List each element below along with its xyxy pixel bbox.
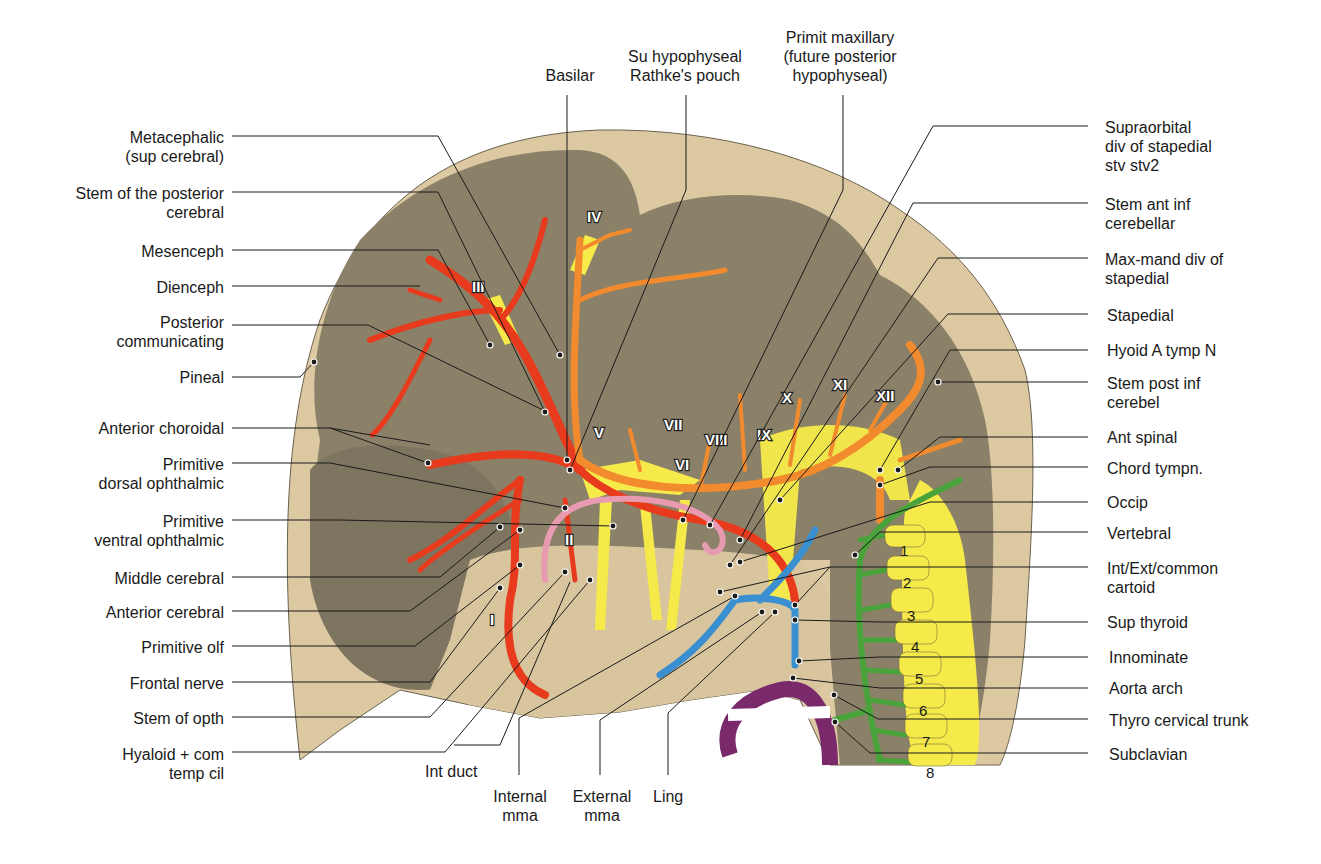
label-stem-of-opth: Stem of opth — [0, 709, 224, 728]
label-chord-tympn: Chord tympn. — [1107, 459, 1203, 478]
label-int-duct: Int duct — [425, 762, 477, 781]
label-stapedial: Stapedial — [1107, 306, 1174, 325]
svg-text:5: 5 — [915, 670, 923, 687]
label-frontal-nerve: Frontal nerve — [0, 674, 224, 693]
label-hyaloid: Hyaloid + com temp cil — [0, 745, 224, 783]
svg-text:7: 7 — [922, 733, 930, 750]
svg-text:XII: XII — [876, 387, 894, 404]
svg-text:II: II — [565, 531, 573, 548]
svg-text:VI: VI — [675, 456, 689, 473]
label-middle-cerebral: Middle cerebral — [0, 569, 224, 588]
label-primit-maxillary: Primit maxillary (future posterior hypop… — [765, 28, 915, 85]
label-anterior-cerebral: Anterior cerebral — [0, 603, 224, 622]
label-stem-posterior-cerebral: Stem of the posterior cerebral — [0, 184, 224, 222]
label-aorta-arch: Aorta arch — [1109, 679, 1183, 698]
svg-text:VII: VII — [664, 416, 682, 433]
label-mesenceph: Mesenceph — [0, 242, 224, 261]
label-su-hypophyseal: Su hypophyseal Rathke's pouch — [610, 47, 760, 85]
label-ling: Ling — [653, 787, 683, 806]
label-anterior-choroidal: Anterior choroidal — [0, 419, 224, 438]
label-occip: Occip — [1107, 493, 1148, 512]
svg-text:2: 2 — [903, 574, 911, 591]
label-metacephalic: Metacephalic (sup cerebral) — [0, 128, 224, 166]
label-max-mand-div: Max-mand div of stapedial — [1105, 250, 1223, 288]
svg-text:VIII: VIII — [705, 431, 728, 448]
label-internal-mma: Internal mma — [480, 787, 560, 825]
label-innominate: Innominate — [1109, 648, 1188, 667]
label-supraorbital: Supraorbital div of stapedial stv stv2 — [1105, 118, 1212, 175]
svg-text:X: X — [782, 389, 792, 406]
label-primitive-ventral-ophthalmic: Primitive ventral ophthalmic — [0, 512, 224, 550]
label-stem-ant-inf-cerebellar: Stem ant inf cerebellar — [1105, 195, 1190, 233]
label-pineal: Pineal — [0, 368, 224, 387]
svg-text:4: 4 — [911, 638, 919, 655]
svg-text:8: 8 — [926, 764, 934, 781]
svg-text:IV: IV — [587, 208, 601, 225]
label-sup-thyroid: Sup thyroid — [1107, 613, 1188, 632]
label-subclavian: Subclavian — [1109, 745, 1187, 764]
svg-text:XI: XI — [833, 376, 847, 393]
svg-text:III: III — [472, 278, 485, 295]
label-vertebral: Vertebral — [1107, 524, 1171, 543]
label-primitive-olf: Primitive olf — [0, 638, 224, 657]
label-hyoid-a-tymp-n: Hyoid A tymp N — [1107, 341, 1216, 360]
subclavian-tube — [728, 712, 830, 715]
label-posterior-communicating: Posterior communicating — [0, 313, 224, 351]
label-basilar: Basilar — [525, 66, 615, 85]
svg-text:6: 6 — [919, 702, 927, 719]
svg-text:I: I — [490, 611, 494, 628]
label-int-ext-common-carotid: Int/Ext/common cartoid — [1107, 559, 1218, 597]
label-dienceph: Dienceph — [0, 278, 224, 297]
label-stem-post-inf-cerebel: Stem post inf cerebel — [1107, 374, 1200, 412]
label-ant-spinal: Ant spinal — [1107, 428, 1177, 447]
svg-text:3: 3 — [907, 607, 915, 624]
label-thyro-cervical-trunk: Thyro cervical trunk — [1109, 711, 1249, 730]
svg-text:V: V — [594, 424, 604, 441]
label-external-mma: External mma — [560, 787, 644, 825]
svg-text:1: 1 — [900, 542, 908, 559]
label-primitive-dorsal-ophthalmic: Primitive dorsal ophthalmic — [0, 455, 224, 493]
